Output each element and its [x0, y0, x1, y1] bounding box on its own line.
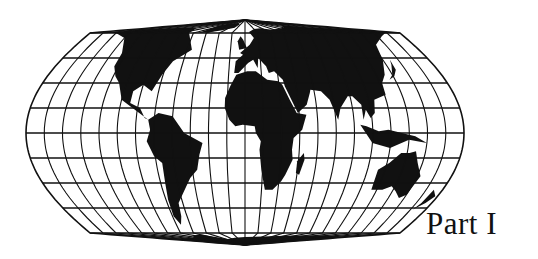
continent-indonesia: [360, 125, 427, 148]
continent-north-america: [103, 28, 196, 120]
land-masses: [103, 23, 435, 245]
part-title: Part I: [426, 206, 497, 242]
continent-japan: [390, 60, 396, 80]
graticule: [26, 20, 464, 245]
